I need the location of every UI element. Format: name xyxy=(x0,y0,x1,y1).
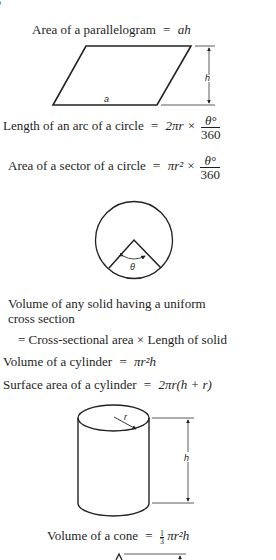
parallelogram-diagram: h a xyxy=(53,46,215,105)
parallelogram-height-label: h xyxy=(205,73,210,83)
diagrams-canvas: h a θ r h xyxy=(0,0,276,560)
sector-diagram: θ xyxy=(96,202,173,279)
sector-angle-label: θ xyxy=(130,262,135,272)
parallelogram-base-label: a xyxy=(104,94,109,104)
cylinder-radius-label: r xyxy=(124,412,128,422)
cylinder-height-label: h xyxy=(184,453,189,463)
cylinder-diagram: r h xyxy=(78,405,194,516)
cone-diagram xyxy=(116,554,186,560)
